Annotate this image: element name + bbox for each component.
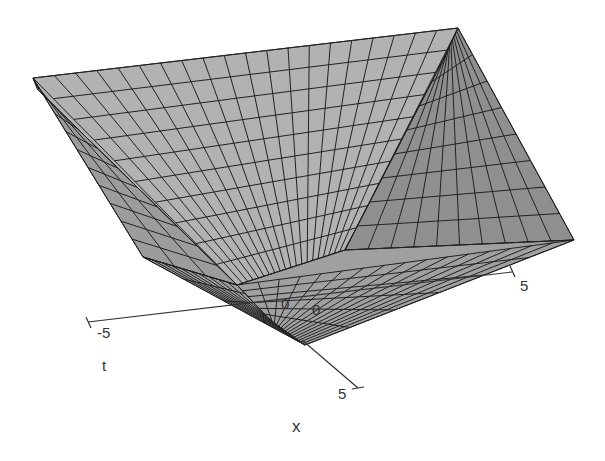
x-axis-label: x	[292, 418, 301, 435]
surface-mesh	[33, 28, 574, 345]
surface-plot	[0, 0, 605, 461]
x-tick-max: 5	[338, 386, 346, 401]
t-axis-label: t	[102, 358, 106, 373]
t-tick-zero: 0	[281, 296, 289, 311]
x-tick-zero: 0	[312, 302, 320, 317]
t-tick-max: 5	[520, 278, 528, 293]
t-tick-min: -5	[97, 325, 110, 340]
